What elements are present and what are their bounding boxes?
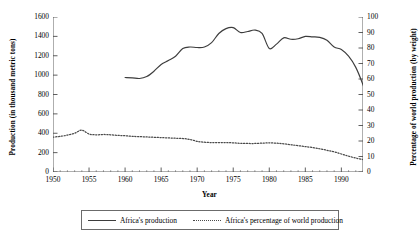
y-axis-right-tick-label: 70 [367, 59, 393, 68]
y-axis-left-tick-label: 400 [23, 128, 49, 137]
y-axis-left-tick-label: 800 [23, 90, 49, 99]
y-axis-right-tick-label: 30 [367, 121, 393, 130]
y-axis-left-tick-label: 1400 [23, 31, 49, 40]
legend-label-percentage: Africa's percentage of world production [225, 216, 343, 225]
y-axis-right-tick-label: 90 [367, 28, 393, 37]
y-axis-right-title: Percentage of world production (by weigh… [410, 13, 418, 181]
chart-legend: Africa's production Africa's percentage … [81, 210, 339, 230]
x-axis-tick-label: 1950 [38, 175, 68, 184]
x-axis-title: Year [0, 191, 419, 199]
y-axis-right-tick-label: 0 [367, 167, 393, 176]
legend-item-africas-percentage: Africa's percentage of world production [193, 211, 343, 229]
x-axis-tick-label: 1980 [254, 175, 284, 184]
y-axis-right-tick-label: 100 [367, 12, 393, 21]
y-axis-left-tick-label: 200 [23, 148, 49, 157]
y-axis-right-tick-label: 40 [367, 105, 393, 114]
y-axis-right-tick-label: 20 [367, 136, 393, 145]
y-axis-right-tick-label: 10 [367, 152, 393, 161]
y-axis-left-tick-label: 1000 [23, 70, 49, 79]
y-axis-right-tick-label: 60 [367, 74, 393, 83]
legend-solid-line-icon [88, 216, 116, 224]
y-axis-left-title: Production (in thousand metric tons) [9, 21, 17, 173]
x-axis-tick-label: 1970 [182, 175, 212, 184]
y-axis-left-tick-label: 1200 [23, 51, 49, 60]
x-axis-tick-label: 1960 [110, 175, 140, 184]
y-axis-left-tick-label: 600 [23, 109, 49, 118]
x-axis-tick-label: 1975 [218, 175, 248, 184]
series-line-africas-percentage [53, 130, 363, 159]
series-line-africas-production [125, 27, 363, 106]
x-axis-tick-label: 1965 [146, 175, 176, 184]
x-axis-tick-label: 1955 [74, 175, 104, 184]
chart-figure: Production (in thousand metric tons) Per… [0, 0, 419, 237]
legend-item-africas-production: Africa's production [88, 211, 177, 229]
y-axis-right-tick-label: 50 [367, 90, 393, 99]
plot-area [53, 17, 363, 172]
legend-label-production: Africa's production [120, 216, 177, 225]
x-axis-tick-label: 1985 [290, 175, 320, 184]
y-axis-left-tick-label: 1600 [23, 12, 49, 21]
legend-dotted-line-icon [193, 216, 221, 224]
x-axis-tick-label: 1990 [326, 175, 356, 184]
y-axis-right-tick-label: 80 [367, 43, 393, 52]
